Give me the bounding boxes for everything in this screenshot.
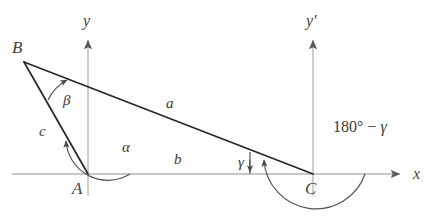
vertex-label-C: C [305,180,316,197]
angle-arc-group [48,80,365,209]
side-label-c: c [39,124,46,139]
geometry-diagram: B A C x y y' a b c α β γ 180° − γ [0,0,433,224]
vertex-label-B: B [12,39,22,56]
side-a-line [24,62,313,174]
gamma-symbol: γ [380,118,386,135]
x-axis-label: x [413,166,420,182]
angle-label-alpha: α [122,140,130,155]
triangle-group [24,62,313,174]
vertex-label-A: A [72,180,82,197]
degree-symbol: ° [357,118,363,135]
y-prime-axis-label: y' [306,13,317,29]
supplement-degrees: 180 [333,118,357,135]
side-label-a: a [166,96,174,111]
side-label-b: b [174,152,182,167]
angle-label-supplement: 180° − γ [333,119,387,135]
angle-label-beta: β [63,93,70,108]
angle-label-gamma: γ [238,155,244,170]
minus-sign: − [367,118,376,135]
side-c-line [24,62,88,174]
diagram-canvas [0,0,433,224]
y-axis-label: y [83,13,90,29]
